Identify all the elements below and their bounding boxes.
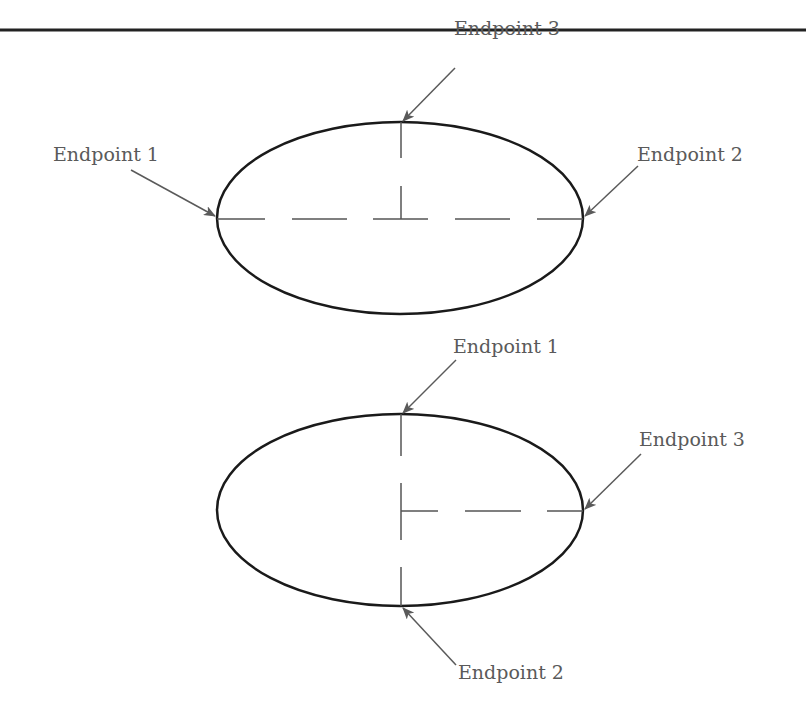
top-ellipse (217, 122, 583, 314)
ellipse-endpoints-diagram: Endpoint 1 Endpoint 2 Endpoint 3 Endpoin… (0, 0, 806, 715)
bottom-endpoint-2-arrow (403, 608, 456, 665)
top-ellipse-group: Endpoint 1 Endpoint 2 Endpoint 3 (53, 17, 743, 314)
bottom-ellipse (217, 414, 583, 606)
bottom-endpoint-3-arrow (585, 454, 641, 509)
bottom-ellipse-group: Endpoint 1 Endpoint 3 Endpoint 2 (217, 335, 745, 683)
top-endpoint-2-arrow (585, 166, 638, 216)
bottom-endpoint-1-arrow (403, 360, 456, 413)
bottom-endpoint-3-label: Endpoint 3 (639, 428, 745, 450)
top-endpoint-1-arrow (131, 170, 215, 216)
top-endpoint-3-arrow (403, 68, 455, 121)
bottom-endpoint-1-label: Endpoint 1 (453, 335, 559, 357)
top-endpoint-1-label: Endpoint 1 (53, 143, 159, 165)
top-endpoint-3-label: Endpoint 3 (454, 17, 560, 39)
bottom-endpoint-2-label: Endpoint 2 (458, 661, 564, 683)
top-endpoint-2-label: Endpoint 2 (637, 143, 743, 165)
